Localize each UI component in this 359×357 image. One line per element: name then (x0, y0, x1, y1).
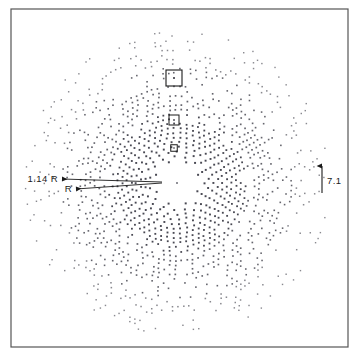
pattern-dot (258, 233, 260, 235)
pattern-dot (115, 134, 117, 136)
pattern-dot (141, 161, 143, 163)
pattern-dot (104, 190, 106, 192)
pattern-dot (244, 114, 246, 116)
pattern-dot (175, 265, 177, 267)
pattern-dot (203, 250, 205, 252)
pattern-dot (71, 227, 73, 229)
pattern-dot (163, 78, 165, 80)
pattern-dot (324, 217, 325, 218)
pattern-dot (190, 296, 192, 298)
pattern-dot (131, 234, 133, 236)
pattern-dot (97, 228, 99, 230)
pattern-dot (153, 271, 155, 273)
pattern-dot (221, 175, 223, 177)
pattern-dot (117, 192, 119, 194)
pattern-dot (257, 152, 259, 154)
pattern-dot (238, 200, 240, 202)
pattern-dot (153, 266, 155, 268)
pattern-dot (149, 130, 151, 132)
pattern-dot (130, 272, 132, 274)
pattern-dot (104, 154, 106, 156)
pattern-dot (205, 160, 207, 162)
pattern-dot (301, 113, 302, 114)
pattern-dot (262, 284, 263, 285)
pattern-dot (143, 151, 145, 153)
pattern-dot (101, 123, 103, 125)
pattern-dot (209, 207, 211, 209)
pattern-dot (163, 254, 165, 256)
pattern-dot (197, 257, 199, 259)
pattern-dot (234, 307, 235, 308)
pattern-dot (172, 132, 174, 134)
pattern-dot (277, 187, 279, 189)
pattern-dot (68, 91, 69, 92)
pattern-dot (220, 303, 222, 305)
pattern-dot (174, 155, 176, 157)
pattern-dot (186, 231, 188, 233)
pattern-dot (130, 152, 132, 154)
pattern-dot (96, 101, 98, 103)
pattern-dot (180, 251, 182, 253)
pattern-dot (110, 152, 112, 154)
pattern-dot (203, 130, 205, 132)
pattern-dot (110, 282, 112, 284)
pattern-dot (139, 215, 141, 217)
pattern-dot (122, 251, 124, 253)
pattern-dot (205, 204, 207, 206)
pattern-dot (106, 149, 108, 151)
pattern-dot (255, 205, 257, 207)
pattern-dot (238, 310, 239, 311)
pattern-dot (178, 223, 180, 225)
pattern-dot (198, 242, 200, 244)
pattern-dot (286, 134, 288, 136)
pattern-dot (249, 100, 251, 102)
pattern-dot (245, 185, 247, 187)
pattern-dot (175, 95, 177, 97)
pattern-dot (173, 232, 175, 234)
pattern-dot (134, 140, 136, 142)
pattern-dot (240, 104, 242, 106)
pattern-dot (198, 147, 200, 149)
pattern-dot (233, 211, 235, 213)
pattern-dot (305, 110, 306, 111)
pattern-dot (214, 131, 216, 133)
pattern-dot (235, 302, 236, 303)
pattern-dot (174, 278, 176, 280)
pattern-dot (253, 110, 255, 112)
pattern-dot (229, 195, 231, 197)
pattern-dot (151, 280, 153, 282)
pattern-dot (179, 241, 181, 243)
pattern-dot (280, 107, 282, 109)
pattern-dot (84, 132, 86, 134)
pattern-dot (115, 69, 117, 71)
pattern-dot (186, 259, 188, 261)
pattern-dot (138, 157, 140, 159)
pattern-dot (140, 129, 142, 131)
pattern-dot (88, 230, 90, 232)
pattern-dot (220, 71, 222, 73)
pattern-dot (154, 33, 155, 34)
pattern-dot (163, 215, 165, 217)
pattern-dot (131, 119, 133, 121)
pattern-dot (203, 245, 205, 247)
pattern-dot (261, 260, 263, 262)
pattern-dot (228, 228, 230, 230)
pattern-dot (160, 229, 162, 231)
pattern-dot (114, 60, 115, 61)
pattern-dot (137, 104, 139, 106)
pattern-dot (231, 148, 233, 150)
pattern-dot (128, 207, 130, 209)
pattern-dot (207, 274, 209, 276)
pattern-dot (150, 214, 152, 216)
pattern-dot (151, 312, 152, 313)
pattern-dot (240, 299, 241, 300)
pattern-dot (143, 219, 145, 221)
pattern-dot (231, 283, 233, 285)
pattern-dot (235, 158, 237, 160)
pattern-dot (207, 187, 209, 189)
pattern-dot (135, 304, 137, 306)
pattern-dot (218, 258, 220, 260)
pattern-dot (103, 134, 105, 136)
pattern-dot (215, 171, 217, 173)
pattern-dot (109, 165, 111, 167)
